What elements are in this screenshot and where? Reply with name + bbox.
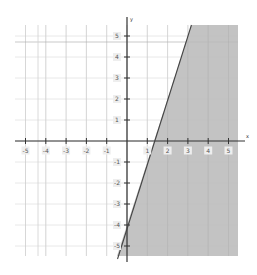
x-tick-label: 4 (206, 147, 210, 154)
coordinate-plane-graph: -5-4-3-2-11234554321-1-2-3-4-5xy (0, 0, 257, 275)
x-tick-label: 2 (166, 147, 170, 154)
x-tick-label: 5 (227, 147, 231, 154)
x-tick-label: 1 (145, 147, 149, 154)
y-tick-label: -2 (114, 179, 120, 186)
x-tick-label: 3 (186, 147, 190, 154)
x-tick-label: -1 (104, 147, 110, 154)
x-tick-label: -2 (83, 147, 89, 154)
x-tick-label: -4 (43, 147, 49, 154)
y-tick-label: -3 (114, 200, 120, 207)
y-tick-label: 3 (115, 74, 119, 81)
x-axis-label: x (246, 133, 249, 139)
y-tick-label: 5 (115, 32, 119, 39)
y-tick-label: 1 (115, 116, 119, 123)
y-tick-label: 2 (115, 95, 119, 102)
y-tick-label: -4 (114, 221, 120, 228)
y-tick-label: -1 (114, 158, 120, 165)
x-tick-label: -5 (23, 147, 29, 154)
x-tick-label: -3 (63, 147, 69, 154)
y-tick-label: -5 (114, 242, 120, 249)
y-tick-label: 4 (115, 53, 119, 60)
y-axis-label: y (130, 16, 133, 23)
